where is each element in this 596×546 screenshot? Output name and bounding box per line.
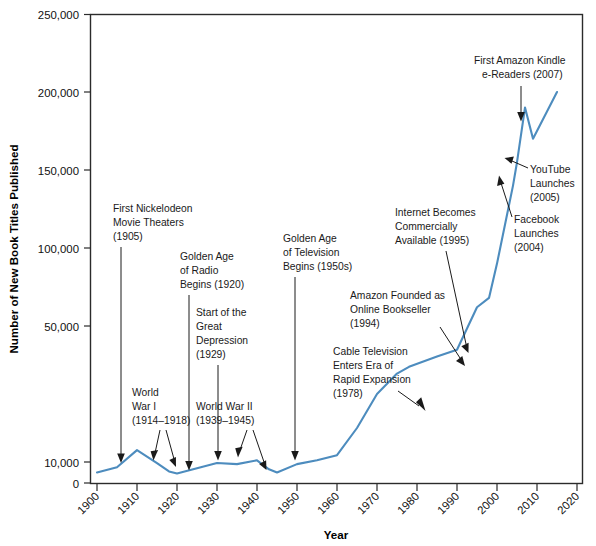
annotation-line: Launches [530,178,575,189]
annotation-line: Depression [196,335,248,346]
leader-line [155,430,160,453]
annotation-line: Launches [514,228,559,239]
y-axis-ticks [84,15,91,484]
annotation-cable-television: Cable Television Enters Era of Rapid Exp… [333,346,426,411]
annotation-line: (2005) [530,192,560,203]
annotation-line: Enters Era of [333,360,393,371]
y-axis-tick-labels: 250,000 200,000 150,000 100,000 50,000 1… [38,9,79,490]
arrowhead-icon [169,457,176,467]
arrowhead-icon [461,343,468,353]
annotation-line: Golden Age [180,251,234,262]
y-tick-label: 250,000 [38,9,79,21]
annotation-line: Cable Television [333,346,408,357]
x-tick-label: 2000 [475,490,501,516]
annotation-line: Available (1995) [395,235,469,246]
annotation-line: e-Readers (2007) [482,69,563,80]
x-tick-label: 1910 [115,490,141,516]
x-tick-label: 1940 [235,490,261,516]
arrowhead-icon [214,451,222,461]
x-tick-label: 2010 [515,490,541,516]
annotation-line: Begins (1950s) [283,261,352,272]
leader-line [166,430,174,459]
annotation-line: Amazon Founded as [350,290,445,301]
annotation-world-war-i: World War I (1914–1918) [132,387,190,467]
x-tick-label: 1970 [355,490,381,516]
chart-figure: 250,000 200,000 150,000 100,000 50,000 1… [0,0,596,546]
y-tick-label: 10,000 [44,457,79,469]
annotation-line: Begins (1920) [180,279,244,290]
x-tick-label: 1930 [195,490,221,516]
x-tick-label: 1990 [435,490,461,516]
chart-svg: 250,000 200,000 150,000 100,000 50,000 1… [0,0,596,546]
x-tick-label: 1960 [315,490,341,516]
annotation-line: (1905) [113,231,143,242]
annotation-line: World War II [196,401,253,412]
leader-line [440,327,460,358]
annotation-line: Great [196,321,222,332]
y-axis-title: Number of New Book Titles Published [7,144,20,353]
y-tick-label: 200,000 [38,87,79,99]
annotation-line: of Television [283,247,340,258]
leader-line [398,391,419,406]
x-tick-label: 2020 [555,490,581,516]
annotation-line: Rapid Expansion [333,374,411,385]
leader-line [446,251,466,344]
annotation-great-depression: Start of the Great Depression (1929) [196,307,248,461]
annotation-line: (1914–1918) [132,415,190,426]
y-tick-label: 150,000 [38,165,79,177]
y-tick-label: 100,000 [38,243,79,255]
annotation-golden-age-radio: Golden Age of Radio Begins (1920) [180,251,244,471]
arrowhead-icon [235,447,243,458]
annotation-line: First Nickelodeon [113,203,193,214]
annotation-line: Start of the [196,307,247,318]
annotation-line: (1929) [196,349,226,360]
x-tick-label: 1900 [75,490,101,516]
annotation-line: (1978) [333,388,363,399]
annotation-line: (2004) [514,242,544,253]
y-tick-label: 50,000 [44,321,79,333]
arrowhead-icon [291,451,299,461]
arrowhead-icon [497,176,504,187]
annotation-line: (1939–1945) [196,415,254,426]
x-tick-label: 1920 [155,490,181,516]
annotation-line: War I [132,401,156,412]
annotation-line: Golden Age [283,233,337,244]
annotation-internet-commercial: Internet Becomes Commercially Available … [395,207,476,353]
annotation-line: First Amazon Kindle [474,55,566,66]
leader-line [253,430,264,462]
annotation-line: Commercially [395,221,458,232]
annotation-line: Online Bookseller [350,304,431,315]
arrowhead-icon [456,356,465,366]
arrowhead-icon [505,157,514,164]
annotation-line: Facebook [514,214,560,225]
annotation-line: World [132,387,159,398]
annotation-kindle: First Amazon Kindle e-Readers (2007) [474,55,566,122]
x-tick-label: 1950 [275,490,301,516]
annotation-line: Movie Theaters [113,217,184,228]
annotation-line: YouTube [530,164,571,175]
x-axis-tick-labels: 1900 1910 1920 1930 1940 1950 1960 1970 … [75,490,581,516]
x-axis-title: Year [324,528,349,541]
annotation-line: of Radio [180,265,219,276]
annotation-line: (1994) [350,318,380,329]
leader-line [512,161,528,168]
x-tick-label: 1980 [395,490,421,516]
arrowhead-icon [416,397,426,411]
annotation-line: Internet Becomes [395,207,476,218]
y-tick-label: 0 [73,478,79,490]
x-axis-ticks [97,484,577,492]
leader-line [240,430,247,450]
